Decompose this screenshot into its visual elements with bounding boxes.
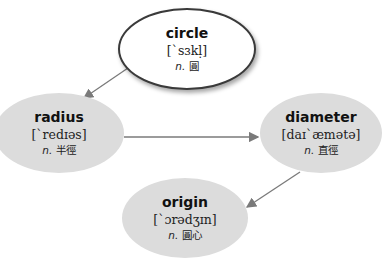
phonetic-label: [daɪˋæmətə] [282,126,361,143]
definition-label: n. 半徑 [42,143,75,158]
word-label: radius [34,109,83,126]
node-diameter: diameter [daɪˋæmətə] n. 直徑 [260,93,382,173]
definition-label: n. 直徑 [304,143,337,158]
word-label: diameter [285,109,356,126]
node-origin: origin [ˋɔrədʒɪn] n. 圓心 [122,178,248,258]
word-label: origin [162,194,208,211]
phonetic-label: [ˋredɪəs] [31,126,86,143]
node-radius: radius [ˋredɪəs] n. 半徑 [0,93,124,173]
definition-label: n. 圓心 [168,228,201,243]
phonetic-label: [ˋsɜkḷ] [167,42,207,59]
phonetic-label: [ˋɔrədʒɪn] [153,211,216,228]
word-label: circle [166,25,209,42]
definition-label: n. 圓 [175,59,198,74]
node-circle: circle [ˋsɜkḷ] n. 圓 [118,8,256,90]
arrow-circle-to-radius [84,68,128,98]
arrow-diameter-to-origin [247,172,300,207]
